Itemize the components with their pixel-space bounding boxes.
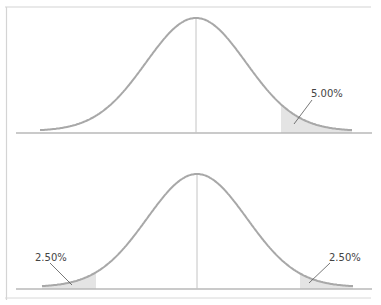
tail-label: 5.00%	[311, 88, 343, 99]
two-tailed-chart: 2.50% 2.50%	[16, 174, 372, 289]
right-tail-label: 2.50%	[329, 252, 361, 263]
left-tail-shade	[42, 272, 96, 289]
leader-line-right	[309, 263, 330, 283]
right-tail-shade	[300, 274, 353, 290]
one-tailed-chart: 5.00%	[16, 18, 372, 133]
figure: 5.00% 2.50% 2.50%	[0, 0, 381, 305]
left-tail-label: 2.50%	[35, 252, 67, 263]
leader-line-left	[50, 263, 72, 285]
